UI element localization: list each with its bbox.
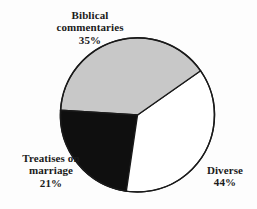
pie-label-biblical-commentaries-line1: Biblical bbox=[30, 9, 150, 21]
pie-label-treatises-on-marriage: Treatises on marriage 21% bbox=[2, 152, 100, 189]
pie-label-biblical-commentaries-line2: commentaries bbox=[30, 21, 150, 33]
pie-label-diverse-line1: Diverse bbox=[196, 164, 254, 176]
pie-label-diverse: Diverse 44% bbox=[196, 164, 254, 189]
pie-chart-figure: Biblical commentaries 35% Treatises on m… bbox=[0, 0, 257, 209]
pie-label-diverse-value: 44% bbox=[196, 176, 254, 188]
pie-label-treatises-on-marriage-line1: Treatises on bbox=[2, 152, 100, 164]
pie-label-biblical-commentaries: Biblical commentaries 35% bbox=[30, 9, 150, 46]
pie-label-treatises-on-marriage-line2: marriage bbox=[2, 164, 100, 176]
pie-label-treatises-on-marriage-value: 21% bbox=[2, 177, 100, 189]
pie-label-biblical-commentaries-value: 35% bbox=[30, 34, 150, 46]
